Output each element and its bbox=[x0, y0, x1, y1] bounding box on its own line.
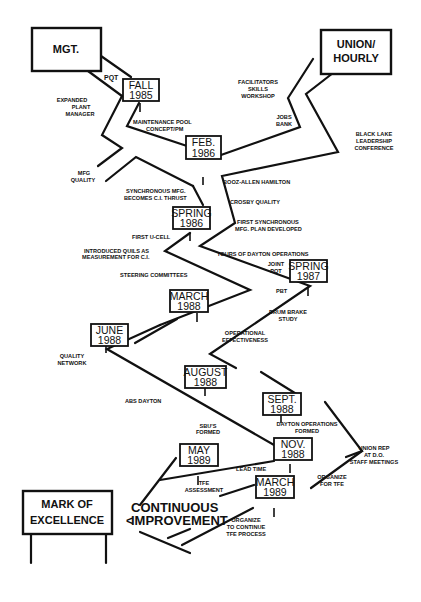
svg-text:1988: 1988 bbox=[270, 403, 294, 415]
svg-text:1985: 1985 bbox=[129, 89, 153, 101]
svg-text:BOOZ-ALLEN HAMILTON: BOOZ-ALLEN HAMILTON bbox=[223, 179, 290, 185]
svg-text:TFE: TFE bbox=[199, 480, 210, 486]
continuous-improvement-goal: CONTINUOUS < IMPROVEMENT bbox=[126, 500, 228, 528]
svg-text:TOURS OF DAYTON OPERATIONS: TOURS OF DAYTON OPERATIONS bbox=[217, 251, 309, 257]
svg-text:DRUM BRAKE: DRUM BRAKE bbox=[269, 309, 307, 315]
svg-text:MARK OF: MARK OF bbox=[41, 498, 93, 510]
svg-text:MAINTENANCE POOL: MAINTENANCE POOL bbox=[133, 119, 192, 125]
svg-text:1986: 1986 bbox=[180, 217, 204, 229]
svg-text:ORGANIZE: ORGANIZE bbox=[231, 517, 261, 523]
milestone-march-1989: MARCH 1989 bbox=[256, 476, 295, 498]
management-box: MGT. bbox=[32, 28, 101, 71]
svg-text:MGT.: MGT. bbox=[53, 43, 79, 55]
svg-text:1986: 1986 bbox=[192, 147, 216, 159]
svg-text:WORKSHOP: WORKSHOP bbox=[241, 93, 275, 99]
svg-text:PQT: PQT bbox=[270, 268, 282, 274]
milestone-spring-1986: SPRING 1986 bbox=[171, 207, 211, 229]
svg-text:QUALITY: QUALITY bbox=[71, 177, 96, 183]
svg-text:1988: 1988 bbox=[98, 334, 122, 346]
svg-text:FACILITATORS: FACILITATORS bbox=[238, 79, 278, 85]
mark-of-excellence-sign: MARK OF EXCELLENCE bbox=[23, 491, 112, 563]
svg-text:PBT: PBT bbox=[276, 288, 288, 294]
svg-text:STEERING COMMITTEES: STEERING COMMITTEES bbox=[120, 272, 188, 278]
milestone-spring-1987: SPRING 1987 bbox=[288, 260, 328, 282]
svg-text:EFFECTIVENESS: EFFECTIVENESS bbox=[222, 337, 268, 343]
svg-text:UNION REP: UNION REP bbox=[358, 445, 389, 451]
svg-text:FIRST SYNCHRONOUS: FIRST SYNCHRONOUS bbox=[237, 219, 299, 225]
diagram-svg: MGT. UNION/ HOURLY MARK OF EXCELLENCE CO… bbox=[0, 0, 421, 602]
timeline-diagram: MGT. UNION/ HOURLY MARK OF EXCELLENCE CO… bbox=[0, 0, 421, 602]
svg-text:CROSBY QUALITY: CROSBY QUALITY bbox=[230, 199, 280, 205]
svg-text:DAYTON OPERATIONS: DAYTON OPERATIONS bbox=[276, 421, 337, 427]
svg-text:PLANT: PLANT bbox=[72, 104, 91, 110]
svg-text:1988: 1988 bbox=[177, 300, 201, 312]
svg-text:JOBS: JOBS bbox=[276, 114, 292, 120]
milestone-may-1989: MAY 1989 bbox=[180, 444, 218, 466]
svg-text:ABS DAYTON: ABS DAYTON bbox=[125, 398, 161, 404]
milestone-feb-1986: FEB. 1986 bbox=[186, 136, 221, 159]
svg-text:CONFERENCE: CONFERENCE bbox=[354, 145, 393, 151]
svg-text:LEADERSHIP: LEADERSHIP bbox=[356, 138, 392, 144]
svg-text:1989: 1989 bbox=[263, 486, 287, 498]
milestone-june-1988: JUNE 1988 bbox=[91, 324, 128, 346]
svg-text:ASSESSMENT: ASSESSMENT bbox=[185, 487, 224, 493]
svg-text:TFE PROCESS: TFE PROCESS bbox=[226, 531, 266, 537]
svg-text:STAFF MEETINGS: STAFF MEETINGS bbox=[350, 459, 399, 465]
svg-text:HOURLY: HOURLY bbox=[333, 52, 379, 64]
svg-text:JOINT: JOINT bbox=[268, 261, 285, 267]
milestone-march-1988: MARCH 1988 bbox=[170, 290, 209, 312]
svg-text:MFG: MFG bbox=[78, 170, 90, 176]
svg-text:LEAD TIME: LEAD TIME bbox=[236, 466, 266, 472]
svg-text:EXCELLENCE: EXCELLENCE bbox=[30, 514, 104, 526]
svg-text:1987: 1987 bbox=[297, 270, 321, 282]
svg-text:SYNCHRONOUS MFG.: SYNCHRONOUS MFG. bbox=[126, 188, 186, 194]
event-labels: PQT EXPANDED PLANT MANAGER MAINTENANCE P… bbox=[57, 74, 399, 537]
svg-text:MEASUREMENT FOR C.I.: MEASUREMENT FOR C.I. bbox=[82, 254, 150, 260]
union-hourly-box: UNION/ HOURLY bbox=[321, 30, 391, 74]
svg-text:1988: 1988 bbox=[194, 376, 218, 388]
svg-text:FORMED: FORMED bbox=[295, 428, 319, 434]
svg-text:FOR TFE: FOR TFE bbox=[320, 481, 344, 487]
milestone-nov-1988: NOV. 1988 bbox=[274, 438, 312, 460]
svg-text:MFG. PLAN DEVELOPED: MFG. PLAN DEVELOPED bbox=[235, 226, 302, 232]
svg-text:BECOMES C.I. THRUST: BECOMES C.I. THRUST bbox=[124, 195, 187, 201]
svg-text:1988: 1988 bbox=[281, 448, 305, 460]
svg-text:FIRST U-CELL: FIRST U-CELL bbox=[132, 234, 171, 240]
svg-text:AT D.O.: AT D.O. bbox=[364, 452, 385, 458]
svg-text:1989: 1989 bbox=[187, 454, 211, 466]
svg-text:QUALITY: QUALITY bbox=[60, 353, 85, 359]
milestone-fall-1985: FALL 1985 bbox=[123, 79, 159, 101]
svg-text:STUDY: STUDY bbox=[279, 316, 298, 322]
svg-text:TO CONTINUE: TO CONTINUE bbox=[227, 524, 266, 530]
svg-text:CONCEPT/PM: CONCEPT/PM bbox=[146, 126, 184, 132]
svg-text:UNION/: UNION/ bbox=[337, 38, 376, 50]
svg-text:NETWORK: NETWORK bbox=[58, 360, 87, 366]
svg-text:EXPANDED: EXPANDED bbox=[57, 97, 88, 103]
svg-text:BANK: BANK bbox=[276, 121, 292, 127]
svg-text:MANAGER: MANAGER bbox=[66, 111, 95, 117]
svg-text:ORGANIZE: ORGANIZE bbox=[317, 474, 347, 480]
milestone-august-1988: AUGUST 1988 bbox=[184, 366, 228, 388]
svg-text:FORMED: FORMED bbox=[196, 429, 220, 435]
svg-text:SKILLS: SKILLS bbox=[248, 86, 268, 92]
svg-text:PQT: PQT bbox=[104, 74, 119, 82]
milestone-sept-1988: SEPT. 1988 bbox=[263, 393, 301, 415]
svg-text:OPERATIONAL: OPERATIONAL bbox=[225, 330, 266, 336]
svg-text:BLACK LAKE: BLACK LAKE bbox=[356, 131, 393, 137]
svg-text:IMPROVEMENT: IMPROVEMENT bbox=[131, 513, 228, 528]
